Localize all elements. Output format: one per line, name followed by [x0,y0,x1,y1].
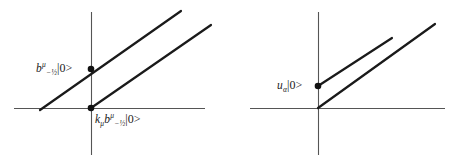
label-kb-subscript: −½ [114,119,125,128]
label-u-ket: |0> [287,78,302,92]
right-panel-graphic [228,0,456,163]
left-point-kb-state [88,105,95,112]
label-b-subscript: −½ [46,68,57,77]
right-panel: uα|0> [228,0,456,163]
label-kb-ket: |0> [125,112,140,126]
label-kb-state: kμbμ−½|0> [95,112,140,128]
left-panel-graphic [0,0,228,163]
right-lower-diagonal [318,24,435,108]
label-b-ket: |0> [57,61,72,75]
label-b-state: bμ−½|0> [36,61,72,77]
figure-root: bμ−½|0> kμbμ−½|0> uα|0> [0,0,456,163]
left-lower-diagonal [91,25,211,108]
right-point-u-state [315,83,322,90]
left-panel: bμ−½|0> kμbμ−½|0> [0,0,228,163]
label-u-state: uα|0> [277,79,302,94]
left-point-b-state [88,66,95,73]
